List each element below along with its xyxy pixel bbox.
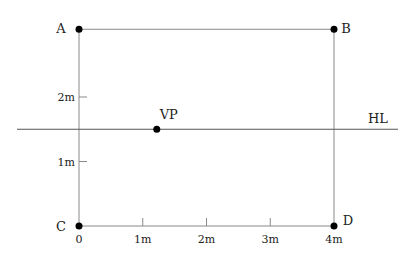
- point-c: [76, 223, 83, 230]
- point-label-d: D: [343, 213, 353, 228]
- frame-rectangle: [79, 29, 334, 226]
- point-label-b: B: [341, 21, 351, 36]
- horizon-line-group: HL: [17, 111, 398, 129]
- y-tick-label: 2m: [58, 91, 76, 104]
- x-tick-label: 0: [76, 233, 83, 246]
- point-label-vp: VP: [159, 107, 178, 122]
- perspective-diagram: HL 01m2m3m4m 1m2m ABCDVP: [0, 0, 411, 257]
- x-axis-ticks: 01m2m3m4m: [76, 218, 344, 246]
- x-tick-label: 2m: [198, 233, 216, 246]
- point-vp: [153, 126, 160, 133]
- point-d: [331, 223, 338, 230]
- y-tick-label: 1m: [58, 156, 76, 169]
- x-tick-label: 1m: [134, 233, 152, 246]
- point-label-c: C: [56, 219, 66, 234]
- point-b: [331, 26, 338, 33]
- horizon-line-label: HL: [368, 111, 388, 126]
- point-a: [76, 26, 83, 33]
- x-tick-label: 4m: [325, 233, 343, 246]
- x-tick-label: 3m: [262, 233, 280, 246]
- points: ABCDVP: [55, 21, 353, 234]
- point-label-a: A: [55, 21, 66, 36]
